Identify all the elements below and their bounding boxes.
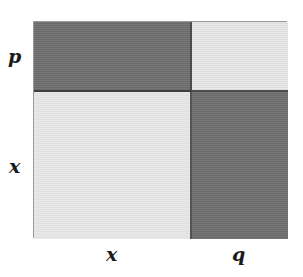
label-bottom-left-x: x	[33, 245, 191, 264]
cell-top-left-px	[34, 22, 192, 92]
area-model-diagram: p x x q	[0, 0, 303, 277]
cell-bottom-right-qx	[192, 92, 288, 239]
label-bottom-right-q: q	[191, 245, 287, 264]
label-left-top-p: p	[0, 47, 30, 66]
cell-top-right-pq	[192, 22, 288, 92]
area-model-grid	[33, 21, 287, 238]
label-left-bottom-x: x	[0, 157, 30, 176]
cell-bottom-left-x-squared	[34, 92, 192, 239]
